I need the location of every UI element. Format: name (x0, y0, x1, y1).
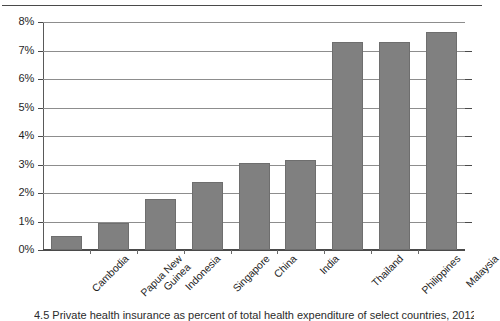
x-axis-category-label: Cambodia (90, 253, 131, 294)
y-axis-tick-label: 8% (0, 16, 34, 27)
y-axis-tick-label: 7% (0, 45, 34, 56)
right-axis-tick-mark (465, 193, 472, 194)
right-axis-tick-mark (465, 79, 472, 80)
right-axis-tick-mark (465, 136, 472, 137)
gridline (43, 22, 465, 23)
y-axis-tick-label: 6% (0, 73, 34, 84)
bar (51, 236, 82, 250)
y-axis-tick-mark (38, 51, 43, 52)
y-axis-tick-label: 1% (0, 216, 34, 227)
gridline (43, 250, 465, 251)
y-axis-tick-mark (38, 108, 43, 109)
x-axis-tick-mark (324, 250, 325, 254)
y-axis-tick-mark (38, 222, 43, 223)
bar (192, 182, 223, 250)
bar (285, 160, 316, 250)
x-axis-category-label-line: Thailand (369, 252, 405, 288)
bar (426, 32, 457, 250)
y-axis-tick-label: 0% (0, 244, 34, 255)
y-axis-tick-mark (38, 136, 43, 137)
x-axis-category-label: Indonesia (183, 253, 223, 293)
y-axis-tick-label: 2% (0, 187, 34, 198)
figure-caption: 4.5 Private health insurance as percent … (34, 309, 474, 321)
right-axis-tick-mark (465, 222, 472, 223)
x-axis-category-label-line: Singapore (230, 252, 272, 294)
x-axis-category-label: Philippines (419, 253, 462, 296)
right-axis-tick-mark (465, 51, 472, 52)
x-axis-category-label: Thailand (369, 253, 405, 289)
right-axis-tick-mark (465, 165, 472, 166)
x-axis-tick-mark (371, 250, 372, 254)
chart-plot-area (43, 22, 465, 250)
bar (379, 42, 410, 250)
x-axis-tick-mark (418, 250, 419, 254)
x-axis-category-label-line: China (271, 252, 299, 280)
y-axis-tick-mark (38, 79, 43, 80)
x-axis-category-label: China (272, 253, 299, 280)
x-axis-tick-mark (184, 250, 185, 254)
y-axis-tick-mark (38, 22, 43, 23)
x-axis-category-label: Singapore (231, 253, 272, 294)
x-axis-tick-mark (137, 250, 138, 254)
x-axis-category-label-line: India (317, 252, 341, 276)
x-axis-category-label: Malaysia (463, 253, 500, 290)
bar (98, 223, 129, 250)
x-axis-tick-mark (231, 250, 232, 254)
bar (145, 199, 176, 250)
y-axis-tick-label: 5% (0, 102, 34, 113)
right-axis-tick-mark (465, 108, 472, 109)
x-axis-tick-mark (277, 250, 278, 254)
x-axis-category-label-line: Philippines (419, 252, 463, 296)
top-horizontal-rule (2, 5, 482, 6)
y-axis-tick-label: 3% (0, 159, 34, 170)
y-axis-tick-mark (38, 193, 43, 194)
x-axis-tick-mark (90, 250, 91, 254)
bar (239, 163, 270, 250)
y-axis-tick-mark (38, 165, 43, 166)
x-axis-category-label: India (317, 253, 341, 277)
y-axis-tick-mark (38, 250, 43, 251)
bar (332, 42, 363, 250)
x-axis-category-label-line: Cambodia (90, 252, 132, 294)
y-axis-tick-label: 4% (0, 130, 34, 141)
x-axis-category-label-line: Malaysia (463, 252, 500, 289)
